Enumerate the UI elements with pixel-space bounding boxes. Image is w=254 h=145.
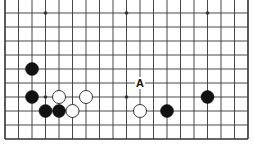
point-label-a: A <box>136 77 144 89</box>
star-point-icon <box>44 95 48 99</box>
white-stone-icon[interactable] <box>53 91 66 104</box>
board-grid <box>5 0 248 139</box>
black-stone-icon[interactable] <box>53 105 66 118</box>
star-point-icon <box>206 11 210 15</box>
black-stone-icon[interactable] <box>39 105 52 118</box>
star-point-icon <box>44 11 48 15</box>
black-stone-icon[interactable] <box>26 91 39 104</box>
white-stone-icon[interactable] <box>134 105 147 118</box>
go-board[interactable]: A <box>0 0 254 145</box>
star-point-icon <box>125 11 129 15</box>
black-stone-icon[interactable] <box>201 91 214 104</box>
star-point-icon <box>125 95 129 99</box>
point-labels: A <box>135 77 145 89</box>
black-stone-icon[interactable] <box>161 105 174 118</box>
white-stone-icon[interactable] <box>66 105 79 118</box>
white-stone-icon[interactable] <box>80 91 93 104</box>
black-stone-icon[interactable] <box>26 63 39 76</box>
stones <box>26 63 215 118</box>
